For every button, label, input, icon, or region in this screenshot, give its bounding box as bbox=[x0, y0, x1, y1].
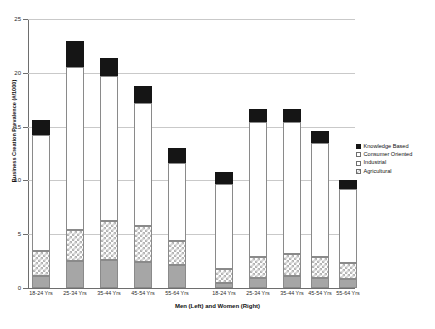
bar-segment-knowledge-based bbox=[100, 58, 118, 76]
legend-item: Agricultural bbox=[356, 169, 434, 175]
bar-0 bbox=[32, 19, 50, 288]
bar-segment-knowledge-based bbox=[215, 172, 233, 184]
legend-label: Industrial bbox=[364, 160, 387, 166]
bar-7 bbox=[283, 19, 301, 288]
white-open-swatch bbox=[356, 161, 361, 166]
y-tick-mark bbox=[23, 288, 28, 289]
bar-segment-knowledge-based bbox=[134, 86, 152, 103]
bar-segment-agricultural bbox=[283, 276, 301, 288]
bar-segment-agricultural bbox=[249, 278, 267, 288]
bar-segment-agricultural bbox=[215, 283, 233, 288]
bar-segment-industrial bbox=[134, 226, 152, 263]
legend-item: Industrial bbox=[356, 160, 434, 166]
bar-segment-consumer-oriented bbox=[134, 103, 152, 226]
legend-label: Knowledge Based bbox=[364, 144, 409, 150]
bar-segment-knowledge-based bbox=[168, 148, 186, 163]
bar-segment-industrial bbox=[283, 254, 301, 277]
bar-segment-agricultural bbox=[339, 279, 357, 288]
bar-segment-industrial bbox=[339, 263, 357, 279]
white-open-swatch bbox=[356, 152, 361, 157]
bar-3 bbox=[134, 19, 152, 288]
bar-9 bbox=[339, 19, 357, 288]
bar-4 bbox=[168, 19, 186, 288]
legend-label: Agricultural bbox=[364, 169, 392, 175]
bar-2 bbox=[100, 19, 118, 288]
x-tick-label: 55-64 Yrs bbox=[328, 291, 368, 296]
bar-1 bbox=[66, 19, 84, 288]
bar-segment-agricultural bbox=[134, 262, 152, 288]
bar-segment-knowledge-based bbox=[32, 120, 50, 135]
bar-segment-industrial bbox=[100, 221, 118, 260]
hatched-gray-swatch bbox=[356, 169, 361, 174]
bar-segment-industrial bbox=[66, 230, 84, 261]
legend-label: Consumer Oriented bbox=[364, 152, 413, 158]
bar-segment-industrial bbox=[249, 257, 267, 279]
bar-segment-agricultural bbox=[32, 276, 50, 288]
bar-segment-knowledge-based bbox=[339, 180, 357, 189]
bar-segment-industrial bbox=[168, 241, 186, 266]
bar-segment-knowledge-based bbox=[283, 109, 301, 122]
bar-segment-agricultural bbox=[66, 261, 84, 288]
bar-segment-consumer-oriented bbox=[66, 67, 84, 229]
bar-segment-industrial bbox=[32, 251, 50, 276]
x-tick-label: 55-64 Yrs bbox=[157, 291, 197, 296]
bar-segment-agricultural bbox=[168, 265, 186, 288]
legend-item: Knowledge Based bbox=[356, 144, 434, 150]
bar-segment-knowledge-based bbox=[66, 41, 84, 68]
bar-segment-industrial bbox=[311, 257, 329, 279]
bar-6 bbox=[249, 19, 267, 288]
bar-segment-knowledge-based bbox=[311, 131, 329, 143]
x-axis-line bbox=[28, 288, 355, 289]
bar-segment-consumer-oriented bbox=[32, 135, 50, 251]
bar-segment-consumer-oriented bbox=[249, 122, 267, 257]
y-tick-label: 0 bbox=[0, 285, 21, 291]
bar-segment-consumer-oriented bbox=[339, 189, 357, 263]
x-axis-title: Men (Left) and Women (Right) bbox=[0, 303, 435, 309]
bar-5 bbox=[215, 19, 233, 288]
legend-item: Consumer Oriented bbox=[356, 152, 434, 158]
bar-chart: 0510152025 18-24 Yrs25-34 Yrs35-44 Yrs45… bbox=[0, 0, 435, 329]
bar-segment-consumer-oriented bbox=[215, 184, 233, 269]
bar-segment-agricultural bbox=[311, 278, 329, 288]
plot-area bbox=[28, 19, 355, 288]
bar-segment-consumer-oriented bbox=[283, 122, 301, 253]
bar-8 bbox=[311, 19, 329, 288]
bar-segment-knowledge-based bbox=[249, 109, 267, 122]
bar-segment-consumer-oriented bbox=[311, 143, 329, 257]
black-filled-swatch bbox=[356, 144, 361, 149]
bar-segment-consumer-oriented bbox=[100, 76, 118, 221]
bar-segment-industrial bbox=[215, 269, 233, 283]
bar-segment-agricultural bbox=[100, 260, 118, 288]
y-tick-label: 5 bbox=[0, 231, 21, 237]
y-tick-label: 25 bbox=[0, 16, 21, 22]
bar-segment-consumer-oriented bbox=[168, 163, 186, 240]
y-axis-title: Business Creation Prevalence (#/1000) bbox=[11, 31, 17, 231]
chart-legend: Knowledge BasedConsumer OrientedIndustri… bbox=[356, 144, 434, 177]
